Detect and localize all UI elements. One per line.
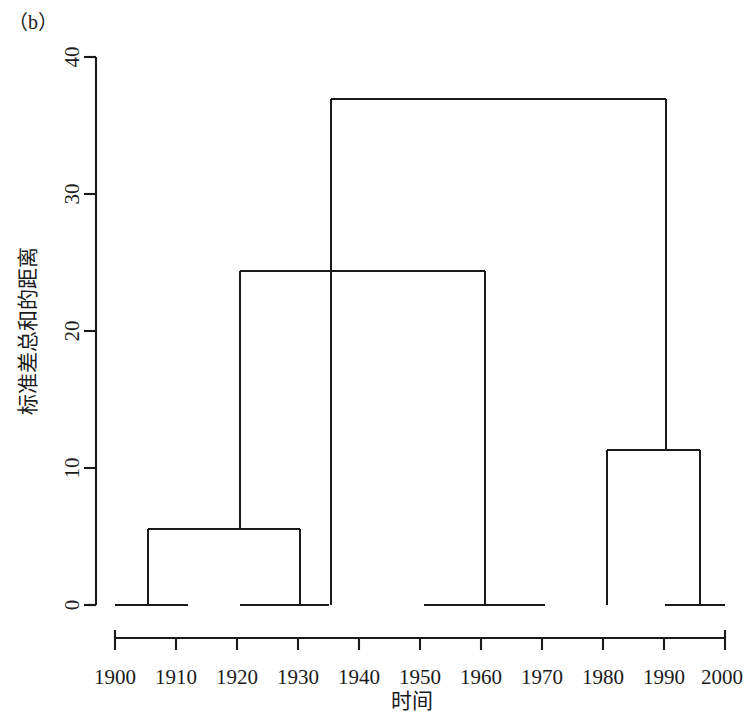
y-tick-label-40: 40: [60, 47, 84, 68]
x-axis: 1900 1910 1920 1930 1940 1950 1960 1970 …: [94, 630, 743, 712]
x-tick-label-1910: 1910: [155, 665, 197, 689]
figure-root: （b） 40 30 20 10 0 标准差总和的距离: [0, 0, 749, 719]
x-tick-label-1980: 1980: [582, 665, 624, 689]
x-tick-label-1920: 1920: [216, 665, 258, 689]
x-tick-label-1900: 1900: [94, 665, 136, 689]
x-tick-label-1930: 1930: [277, 665, 319, 689]
dendrogram-tree: [115, 99, 725, 605]
y-axis: 40 30 20 10 0 标准差总和的距离: [16, 47, 97, 611]
y-axis-title: 标准差总和的距离: [16, 247, 39, 415]
x-tick-label-1940: 1940: [338, 665, 380, 689]
x-tick-label-1970: 1970: [521, 665, 563, 689]
y-tick-label-20: 20: [60, 321, 84, 342]
y-tick-label-30: 30: [60, 184, 84, 205]
x-tick-label-1950: 1950: [399, 665, 441, 689]
y-tick-label-0: 0: [60, 600, 84, 611]
x-tick-label-1960: 1960: [460, 665, 502, 689]
x-axis-title: 时间: [391, 689, 433, 712]
x-tick-label-1990: 1990: [643, 665, 685, 689]
dendrogram-plot: 40 30 20 10 0 标准差总和的距离: [0, 0, 749, 719]
x-tick-label-2000: 2000: [701, 665, 743, 689]
y-tick-label-10: 10: [60, 458, 84, 479]
